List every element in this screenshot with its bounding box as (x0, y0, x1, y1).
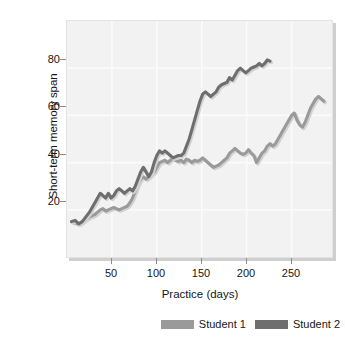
legend-label-student-1: Student 1 (199, 318, 246, 330)
plot-area (66, 20, 333, 258)
series-line-2 (71, 60, 270, 224)
x-tick-mark-100 (156, 258, 157, 264)
x-tick-label-150: 150 (186, 267, 216, 279)
legend-swatch-student-1 (161, 320, 194, 329)
y-tick-mark-60 (60, 106, 66, 107)
x-tick-label-200: 200 (231, 267, 261, 279)
x-tick-label-100: 100 (141, 267, 171, 279)
chart-legend: Student 1 Student 2 (150, 314, 340, 334)
x-tick-mark-150 (201, 258, 202, 264)
legend-label-student-2: Student 2 (293, 318, 340, 330)
y-tick-label-80: 80 (34, 53, 60, 65)
x-tick-label-50: 50 (96, 267, 126, 279)
x-tick-mark-50 (111, 258, 112, 264)
y-tick-label-20: 20 (34, 195, 60, 207)
x-tick-mark-250 (291, 258, 292, 264)
series-lines (71, 60, 325, 225)
x-tick-mark-200 (246, 258, 247, 264)
x-axis-title: Practice (days) (66, 288, 334, 300)
legend-swatch-student-2 (255, 320, 288, 329)
plot-svg (67, 21, 332, 257)
x-tick-label-250: 250 (276, 267, 306, 279)
chart-figure: Short-term memory span 80 60 40 20 50 10… (0, 0, 345, 343)
legend-item-student-2[interactable]: Student 2 (255, 318, 340, 330)
y-tick-mark-20 (60, 201, 66, 202)
y-tick-label-40: 40 (34, 148, 60, 160)
legend-item-student-1[interactable]: Student 1 (161, 318, 246, 330)
y-tick-mark-80 (60, 59, 66, 60)
gridlines (67, 21, 332, 257)
y-tick-mark-40 (60, 154, 66, 155)
y-tick-label-60: 60 (34, 100, 60, 112)
